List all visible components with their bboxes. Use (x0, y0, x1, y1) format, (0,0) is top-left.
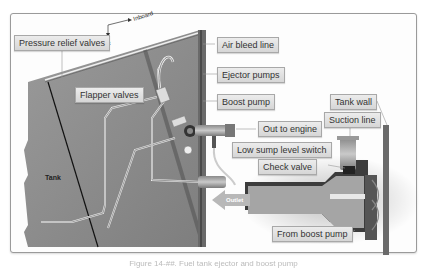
outlet-label: Outlet (226, 197, 243, 203)
label-flapper-valves: Flapper valves (75, 87, 144, 103)
label-boost-pump: Boost pump (217, 94, 275, 110)
label-check-valve: Check valve (258, 159, 317, 175)
label-out-to-engine: Out to engine (258, 121, 322, 137)
label-air-bleed-line: Air bleed line (217, 37, 279, 53)
figure-caption: Figure 14-##. Fuel tank ejector and boos… (0, 259, 427, 268)
label-from-boost-pump: From boost pump (272, 226, 353, 242)
label-low-sump-level-switch: Low sump level switch (232, 142, 332, 158)
label-suction-line: Suction line (324, 112, 381, 128)
label-tank-wall: Tank wall (330, 94, 377, 110)
tank-label: Tank (45, 174, 61, 181)
label-pressure-relief-valves: Pressure relief valves (14, 35, 110, 51)
label-ejector-pumps: Ejector pumps (217, 67, 285, 83)
